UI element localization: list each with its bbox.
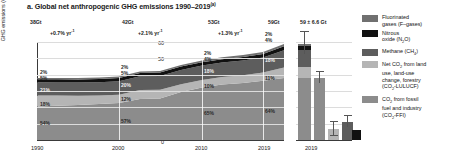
growth-rate-1990-2000: +0.7% yr-1 (50, 29, 74, 36)
legend-item-n2o: Nitrousoxide (N2O) (362, 30, 452, 46)
bar-n2o-2019 (352, 130, 361, 140)
gridline-20 (37, 107, 284, 108)
x-axis-line (37, 140, 284, 141)
bar-total-2019 (298, 44, 311, 140)
error-bar-ch4 (347, 116, 348, 127)
x-tick-2019: 2019 (258, 145, 270, 151)
year-marker-2019 (263, 52, 264, 140)
bar-co2-ffi-2019 (314, 78, 325, 140)
title-superscript: (a) (210, 2, 215, 7)
side-panel-x-axis-line (296, 140, 352, 141)
legend-label-co2-lulucf: Net CO2 from landuse, land-usechange, fo… (382, 61, 452, 94)
legend-swatch-n2o (362, 30, 378, 37)
x-tick-2010: 2010 (195, 145, 207, 151)
year-marker-2000 (119, 77, 120, 141)
share-label-2010-n2o: 4% (204, 56, 211, 62)
y-axis-label: GHG emissions (GtCO2-eq yr-1) (0, 0, 8, 52)
page-title: a. Global net anthropogenic GHG emission… (27, 2, 216, 11)
legend-swatch-f-gases (362, 15, 378, 22)
legend-label-ch4: Methane (CH4) (382, 48, 452, 58)
share-label-2019-ch4: 18% (265, 57, 275, 63)
share-label-2010-ch4: 18% (204, 68, 214, 74)
growth-rate-2010-2019: +1.3% yr-1 (218, 29, 242, 36)
share-label-2000-ch4: 20% (121, 82, 131, 88)
x-tick-1990: 1990 (31, 145, 43, 151)
legend-label-co2-ffi: CO2 from fossilfuel and industry(CO2-FFI… (382, 96, 452, 122)
gridline-10 (37, 124, 284, 125)
side-panel-total-label: 59 ± 6.6 Gt (300, 19, 326, 25)
error-bar-co2-ffi (319, 72, 320, 83)
share-label-2019-co2-ffi: 64% (265, 108, 275, 114)
share-label-2019-n2o: 4% (265, 37, 272, 43)
legend-item-co2-lulucf: Net CO2 from landuse, land-usechange, fo… (362, 61, 452, 94)
total-label-1990: 38Gt (30, 19, 42, 25)
error-cap-ch4-top (344, 115, 352, 116)
share-label-2000-co2-ffi: 57% (121, 118, 131, 124)
gridline-30 (37, 91, 284, 92)
error-cap-co2-lulucf-top (330, 121, 338, 122)
legend-item-f-gases: Fluorinatedgases (F–gases) (362, 14, 452, 27)
stacked-area-plot (37, 42, 284, 140)
error-bar-co2-lulucf (333, 122, 334, 136)
share-label-2010-co2-ffi: 65% (204, 110, 214, 116)
legend: Fluorinatedgases (F–gases) Nitrousoxide … (362, 14, 452, 124)
legend-label-n2o: Nitrousoxide (N2O) (382, 30, 452, 46)
share-label-2019-co2-lulucf: 11% (265, 75, 275, 81)
share-label-1990-ch4: 21% (40, 87, 50, 93)
bar-total-seg-co2-lulucf (298, 67, 311, 78)
legend-swatch-ch4 (362, 49, 378, 56)
share-label-2000-n2o: 5% (121, 70, 128, 76)
x-tick-2000: 2000 (112, 145, 124, 151)
total-label-2019: 59Gt (268, 19, 280, 25)
share-label-1990-co2-ffi: 54% (40, 120, 50, 126)
growth-rate-2000-2010: +2.1% yr-1 (138, 29, 162, 36)
legend-item-co2-ffi: CO2 from fossilfuel and industry(CO2-FFI… (362, 96, 452, 122)
share-label-2010-co2-lulucf: 10% (204, 83, 214, 89)
legend-label-f-gases: Fluorinatedgases (F–gases) (382, 14, 452, 27)
side-bar-panel (296, 42, 352, 140)
gridline-50 (37, 58, 284, 59)
title-text: a. Global net anthropogenic GHG emission… (27, 2, 210, 11)
legend-swatch-co2-lulucf (362, 61, 378, 68)
gridline-40 (37, 75, 284, 76)
figure-panel-a: a. Global net anthropogenic GHG emission… (0, 0, 453, 165)
total-label-2000: 42Gt (122, 19, 134, 25)
legend-swatch-co2-ffi (362, 96, 378, 103)
side-panel-x-tick-2019: 2019 (305, 145, 317, 151)
share-label-1990-co2-lulucf: 18% (40, 101, 50, 107)
total-label-2010: 53Gt (208, 19, 220, 25)
bar-total-seg-co2-ffi (298, 78, 311, 140)
error-cap-co2-ffi-top (316, 71, 324, 72)
share-label-2000-co2-lulucf: 12% (121, 96, 131, 102)
legend-item-ch4: Methane (CH4) (362, 48, 452, 58)
error-cap-total-top (300, 31, 309, 32)
gridline-60 (37, 42, 284, 43)
year-marker-2010 (202, 60, 203, 140)
share-label-1990-n2o: 5% (40, 75, 47, 81)
error-cap-co2-lulucf-bottom (330, 135, 338, 136)
error-bar-total (304, 32, 305, 54)
